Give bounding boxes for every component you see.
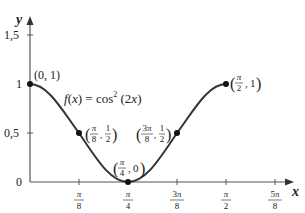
svg-text:,: , (100, 130, 102, 140)
point-label-3pi8-half: ( 3π 8 , 1 2 ) (136, 123, 171, 144)
svg-text:2: 2 (106, 134, 111, 144)
svg-text:2: 2 (160, 134, 165, 144)
svg-text:): ) (112, 126, 117, 144)
svg-text:,: , (128, 162, 131, 174)
svg-text:(: ( (85, 126, 90, 144)
x-tick-label-3pi-8: 3π 8 (170, 189, 184, 211)
svg-text:1: 1 (250, 77, 256, 89)
svg-text:π: π (126, 189, 131, 199)
y-axis-label: y (14, 12, 23, 27)
point-pi4-0 (125, 179, 131, 185)
x-tick-label-pi-8: π 8 (74, 189, 84, 211)
svg-text:(: ( (136, 126, 141, 144)
point-label-pi2-1: ( π 2 , 1 ) (230, 72, 261, 93)
svg-text:4: 4 (120, 168, 125, 178)
y-tick-label-0.5: 0,5 (4, 126, 19, 140)
y-axis-arrow-icon (27, 16, 34, 25)
svg-text:0: 0 (133, 162, 139, 174)
svg-text:): ) (166, 126, 171, 144)
y-tick-label-1: 1 (16, 77, 22, 91)
function-label: f(x) = cos2 (2x) (64, 90, 141, 106)
svg-text:): ) (140, 160, 145, 178)
svg-text:,: , (154, 130, 156, 140)
svg-text:,: , (245, 77, 248, 89)
point-label-pi4-0: ( π 4 , 0 ) (113, 157, 145, 178)
svg-text:8: 8 (145, 134, 150, 144)
svg-text:π: π (120, 157, 125, 167)
point-pi8-half (76, 130, 82, 136)
svg-text:(: ( (230, 75, 235, 93)
svg-text:2: 2 (224, 201, 229, 211)
svg-text:8: 8 (273, 201, 278, 211)
point-label-0-1: (0, 1) (34, 68, 60, 82)
y-tick-label-0: 0 (16, 175, 22, 189)
svg-text:5π: 5π (270, 189, 280, 199)
svg-text:3π: 3π (142, 123, 152, 133)
svg-text:π: π (224, 189, 229, 199)
svg-text:π: π (77, 189, 82, 199)
svg-text:π: π (237, 72, 242, 82)
x-tick-label-pi-2: π 2 (221, 189, 231, 211)
x-tick-label-pi-4: π 4 (123, 189, 133, 211)
x-tick-label-5pi-8: 5π 8 (268, 189, 282, 211)
svg-text:8: 8 (92, 134, 97, 144)
point-0-1 (27, 81, 33, 87)
svg-text:(: ( (113, 160, 118, 178)
svg-text:2: 2 (237, 83, 242, 93)
x-axis-label: x (291, 184, 299, 199)
svg-text:): ) (256, 75, 261, 93)
svg-text:8: 8 (77, 201, 82, 211)
svg-text:π: π (92, 123, 97, 133)
point-pi2-1 (223, 81, 229, 87)
svg-text:1: 1 (106, 123, 111, 133)
svg-text:8: 8 (175, 201, 180, 211)
chart: y x 1,5 1 0,5 0 π 8 π 4 3π 8 π 2 5π (0, 0, 305, 213)
point-3pi8-half (174, 130, 180, 136)
svg-text:f(x) = cos2 (2x): f(x) = cos2 (2x) (64, 90, 141, 106)
point-label-pi8-half: ( π 8 , 1 2 ) (85, 123, 117, 144)
svg-text:3π: 3π (172, 189, 182, 199)
y-tick-label-1.5: 1,5 (4, 28, 19, 42)
svg-text:1: 1 (160, 123, 165, 133)
svg-text:4: 4 (126, 201, 131, 211)
